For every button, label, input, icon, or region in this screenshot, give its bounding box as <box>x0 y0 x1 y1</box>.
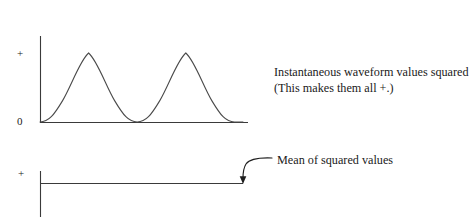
squared-waveform-annotation-line-2: (This makes them all +.) <box>274 80 394 96</box>
mean-of-squared-values-label: Mean of squared values <box>277 152 393 168</box>
mean-callout-arrowhead <box>240 176 247 184</box>
top-plot-zero-axis-label: 0 <box>17 116 23 127</box>
top-plot-positive-axis-label: + <box>17 48 23 59</box>
figure-canvas: + 0 + Instantaneous waveform values squa… <box>0 0 476 217</box>
bottom-plot-positive-axis-label: + <box>18 168 24 179</box>
squared-waveform-curve <box>40 53 243 122</box>
squared-waveform-plot <box>0 0 476 217</box>
squared-waveform-annotation-line-1: Instantaneous waveform values squared <box>274 64 469 80</box>
mean-callout-arrow <box>243 158 272 178</box>
